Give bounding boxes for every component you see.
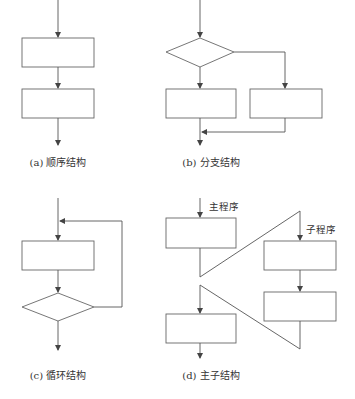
process-box — [22, 89, 94, 118]
sub-box-1 — [264, 241, 336, 270]
caption-main-sub: (d) 主子结构 — [182, 369, 239, 381]
decision-diamond — [166, 38, 234, 67]
process-box — [22, 241, 94, 270]
main-box-top — [166, 218, 236, 248]
diagram-branch: (b) 分支结构 — [166, 0, 322, 168]
process-box — [22, 38, 94, 67]
caption-branch: (b) 分支结构 — [182, 156, 239, 168]
label-subroutine: 子程序 — [306, 224, 336, 235]
diagram-main-sub: 主程序 子程序 (d) 主子结构 — [166, 198, 336, 381]
diagram-sequential: (a) 顺序结构 — [22, 0, 94, 168]
main-box-bottom — [166, 314, 236, 343]
decision-diamond — [22, 293, 94, 321]
label-main-program: 主程序 — [209, 201, 239, 212]
process-box-left — [166, 89, 236, 118]
caption-loop: (c) 循环结构 — [30, 369, 87, 381]
caption-sequential: (a) 顺序结构 — [30, 156, 87, 168]
process-box-right — [250, 89, 322, 118]
diagram-loop: (c) 循环结构 — [22, 198, 122, 381]
sub-box-2 — [264, 292, 336, 321]
flowchart-structures: (a) 顺序结构 (b) 分支结构 (c) 循环结构 主程序 子程序 — [0, 0, 355, 399]
